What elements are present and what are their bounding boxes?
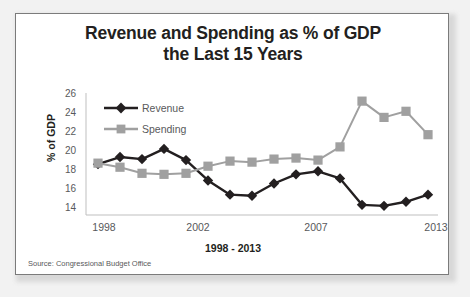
series-line-revenue (98, 149, 428, 206)
plot-area: % of GDP 26 24 22 20 18 16 14 Revenue Sp (16, 14, 450, 276)
chart-slide-background: Revenue and Spending as % of GDP the Las… (0, 0, 470, 297)
legend-label-revenue: Revenue (142, 102, 184, 114)
data-point (291, 153, 300, 162)
data-point (225, 157, 234, 166)
x-axis-tick-2002: 2002 (168, 221, 228, 233)
data-point (423, 130, 432, 139)
data-point (247, 190, 257, 200)
data-point (181, 169, 190, 178)
data-point (159, 170, 168, 179)
data-point (269, 154, 278, 163)
data-point (203, 162, 212, 171)
source-note: Source: Congressional Budget Office (28, 259, 151, 268)
legend-marker-revenue (116, 103, 127, 114)
data-point (335, 142, 344, 151)
data-point (291, 169, 301, 179)
legend-marker-spending (117, 125, 126, 134)
data-point (313, 166, 323, 176)
data-point (423, 189, 433, 199)
data-point (137, 154, 147, 164)
data-point (357, 97, 366, 106)
data-point (379, 113, 388, 122)
chart-canvas (16, 14, 450, 276)
data-point (401, 197, 411, 207)
data-point (313, 156, 322, 165)
data-point (93, 159, 102, 168)
data-point (247, 158, 256, 167)
x-axis-tick-1998: 1998 (74, 221, 134, 233)
x-axis-title: 1998 - 2013 (16, 242, 450, 254)
data-point (159, 144, 169, 154)
data-point (269, 178, 279, 188)
legend-label-spending: Spending (142, 123, 186, 135)
data-point (115, 163, 124, 172)
x-axis-tick-2007: 2007 (286, 221, 346, 233)
x-axis-tick-2013: 2013 (406, 221, 466, 233)
chart-card: Revenue and Spending as % of GDP the Las… (15, 13, 449, 275)
data-point (379, 201, 389, 211)
data-point (137, 169, 146, 178)
data-point (401, 107, 410, 116)
data-point (115, 152, 125, 162)
